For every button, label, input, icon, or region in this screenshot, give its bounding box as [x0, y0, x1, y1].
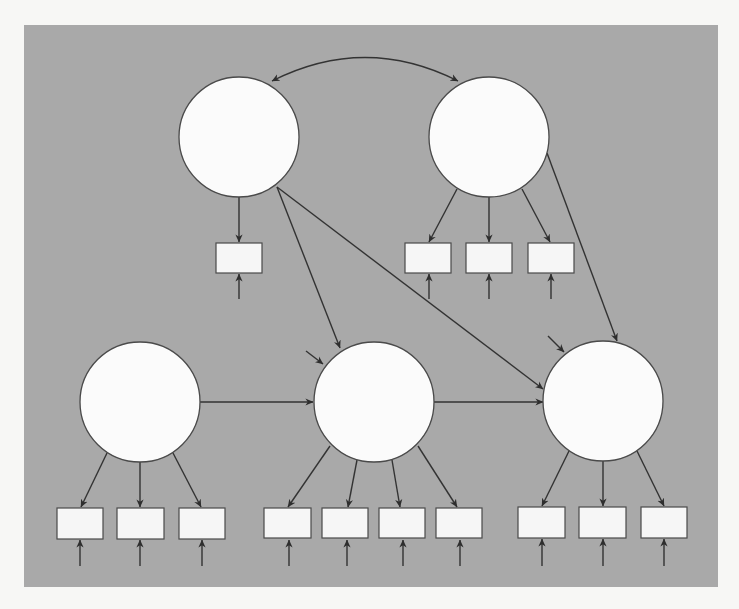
observed-indicator-o8 — [264, 508, 311, 538]
observed-indicator-o1 — [216, 243, 262, 273]
observed-indicator-o7 — [179, 508, 225, 539]
latent-variable-l4 — [314, 342, 434, 462]
observed-indicator-o12 — [518, 507, 565, 538]
observed-indicator-o3 — [466, 243, 512, 273]
diagram-panel — [24, 25, 718, 587]
latent-variable-l3 — [80, 342, 200, 462]
observed-indicator-o11 — [436, 508, 482, 538]
observed-indicator-o6 — [117, 508, 164, 539]
observed-indicator-o10 — [379, 508, 425, 538]
observed-indicator-o2 — [405, 243, 451, 273]
observed-indicator-o14 — [641, 507, 687, 538]
latent-variable-l1 — [179, 77, 299, 197]
observed-indicator-o5 — [57, 508, 103, 539]
observed-indicator-o4 — [528, 243, 574, 273]
latent-variable-l5 — [543, 341, 663, 461]
observed-indicator-o13 — [579, 507, 626, 538]
latent-variable-l2 — [429, 77, 549, 197]
observed-indicator-o9 — [322, 508, 368, 538]
sem-diagram — [0, 0, 739, 609]
